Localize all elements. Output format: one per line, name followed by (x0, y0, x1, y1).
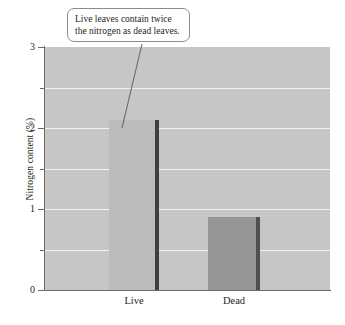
bar-dead-shadow-edge (256, 217, 260, 290)
x-tick-label-dead: Dead (189, 295, 279, 307)
gridline-2-5 (45, 88, 330, 89)
gridline-1-0 (45, 209, 330, 210)
gridline-1-5 (45, 169, 330, 170)
y-tick-mark-0 (38, 290, 45, 291)
y-tick-mark-1 (38, 209, 45, 210)
plot-area (45, 47, 330, 290)
bar-dead-face (208, 217, 260, 290)
bar-dead[interactable] (208, 217, 260, 290)
y-tick-mark-2-5 (40, 88, 45, 89)
y-tick-mark-0-5 (40, 250, 45, 251)
y-axis-title: Nitrogen content (%) (25, 79, 35, 239)
gridline-2-0 (45, 128, 330, 129)
y-tick-label-3: 3 (5, 42, 35, 52)
annotation-callout-box: Live leaves contain twice the nitrogen a… (67, 8, 190, 42)
y-tick-label-0: 0 (5, 285, 35, 295)
bar-live-shadow-edge (155, 120, 159, 290)
x-tick-label-live: Live (89, 295, 179, 307)
y-tick-mark-3 (38, 47, 45, 48)
x-axis-line (44, 290, 331, 291)
y-tick-mark-2 (38, 128, 45, 129)
figure-bar-chart-nitrogen-content: 3 2 1 0 Nitrogen content (%) Live Dead L… (0, 0, 345, 325)
gridline-0-5 (45, 250, 330, 251)
y-tick-mark-1-5 (40, 169, 45, 170)
bar-live-face (109, 120, 159, 290)
bar-live[interactable] (109, 120, 159, 290)
